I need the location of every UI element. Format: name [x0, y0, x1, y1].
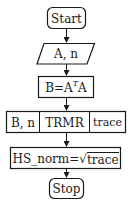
- trmr-cell-output: trace: [90, 112, 125, 133]
- sqrt-argument: trace: [87, 152, 119, 166]
- input-node-label: A, n: [40, 44, 92, 64]
- trmr-cell-name: TRMR: [40, 112, 89, 133]
- compute-b-prefix: B=A: [45, 82, 73, 94]
- trmr-args-text: B, n: [11, 117, 35, 129]
- hs-norm-node-label: HS_norm=√trace: [10, 148, 121, 169]
- compute-b-node-label: B=ATA: [38, 77, 94, 98]
- stop-text: Stop: [53, 183, 81, 195]
- compute-b-suffix: A: [78, 82, 87, 94]
- start-node-label: Start: [47, 8, 86, 29]
- trmr-name-text: TRMR: [45, 117, 83, 129]
- trmr-output-text: trace: [93, 117, 122, 128]
- trmr-cell-args: B, n: [7, 112, 39, 133]
- hs-norm-prefix: HS_norm=: [12, 153, 79, 165]
- start-text: Start: [51, 13, 82, 25]
- input-text: A, n: [54, 48, 78, 60]
- transpose-superscript: T: [73, 80, 78, 88]
- sqrt-icon: √: [79, 153, 87, 165]
- stop-node-label: Stop: [49, 179, 84, 199]
